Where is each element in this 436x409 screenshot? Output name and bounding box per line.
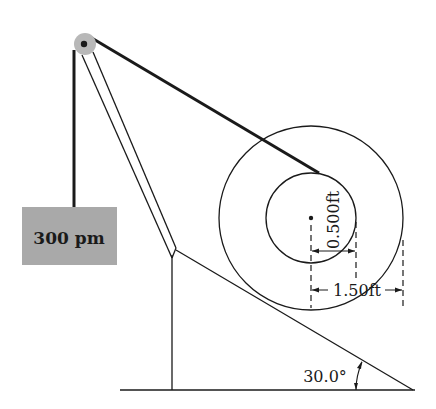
boom-foot	[172, 248, 176, 258]
pulley-spool-diagram: 300 pm 0.500ft 1.50ft 30.0°	[0, 0, 436, 409]
angle-label: 30.0°	[303, 367, 347, 386]
spool-center-dot	[309, 216, 313, 220]
pulley-axle	[81, 41, 87, 47]
inner-radius-label: 0.500ft	[324, 190, 343, 249]
inclined-plane	[176, 250, 413, 390]
angle-arrow-top	[357, 361, 362, 369]
angle-arrow-bottom	[354, 383, 358, 390]
weight-label: 300 pm	[33, 228, 104, 248]
cable-to-spool	[90, 37, 319, 173]
outer-radius-label: 1.50ft	[333, 281, 382, 300]
